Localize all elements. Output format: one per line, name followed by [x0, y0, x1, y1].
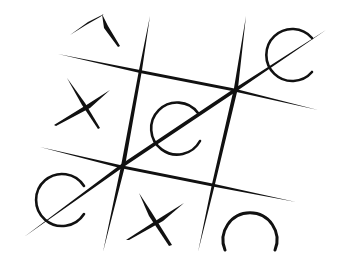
grid-line-left	[103, 16, 150, 252]
tic-tac-toe-board	[0, 0, 340, 266]
mark-x-bottom-middle	[126, 193, 184, 246]
grid-line-bottom	[40, 147, 296, 202]
mark-x-middle-left	[54, 78, 110, 129]
mark-partial-x-top-left	[70, 14, 120, 47]
mark-o-bottom-right	[223, 213, 277, 250]
mark-o-bottom-left	[36, 174, 84, 226]
winning-line	[24, 30, 326, 237]
